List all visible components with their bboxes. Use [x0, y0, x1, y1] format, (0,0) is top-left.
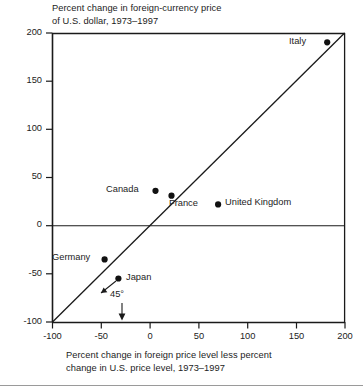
point-label-canada: Canada — [106, 184, 139, 194]
forty-five-degree-line — [53, 33, 345, 322]
point-label-france: France — [169, 198, 198, 208]
y-tick-label-minus50: -50 — [8, 268, 42, 278]
y-tick-label-0: 0 — [8, 219, 42, 229]
x-axis-title-line-2: change in U.S. price level, 1973–1997 — [66, 363, 225, 373]
forty-five-degree-label: 45° — [110, 289, 124, 299]
y-tick-label-100: 100 — [8, 123, 42, 133]
y-tick-label-200: 200 — [8, 27, 42, 37]
data-point-canada — [152, 188, 158, 194]
x-tick-label-200: 200 — [325, 331, 363, 341]
data-point-germany — [102, 256, 108, 262]
data-point-united-kingdom — [215, 201, 221, 207]
x-tick-label-50: 50 — [179, 331, 219, 341]
scatter-chart: Percent change in foreign-currency price… — [0, 0, 363, 392]
y-tick-label-50: 50 — [8, 171, 42, 181]
point-label-germany: Germany — [52, 252, 90, 262]
x-tick-label-minus50: -50 — [81, 331, 121, 341]
x-axis-title: Percent change in foreign price level le… — [66, 349, 272, 374]
y-tick-label-150: 150 — [8, 75, 42, 85]
x-axis-title-line-1: Percent change in foreign price level le… — [66, 350, 272, 360]
point-label-italy: Italy — [289, 36, 306, 46]
x-tick-label-150: 150 — [277, 331, 317, 341]
x-tick-label-0: 0 — [130, 331, 170, 341]
point-label-united-kingdom: United Kingdom — [225, 197, 291, 207]
x-tick-label-100: 100 — [228, 331, 268, 341]
point-label-japan: Japan — [126, 272, 151, 282]
data-point-japan — [115, 275, 121, 281]
bottom-divider — [0, 385, 363, 386]
angle-label-arrow-head — [119, 314, 126, 321]
y-tick-label-minus100: -100 — [8, 316, 42, 326]
x-tick-label-minus100: -100 — [33, 331, 73, 341]
data-point-italy — [324, 39, 330, 45]
